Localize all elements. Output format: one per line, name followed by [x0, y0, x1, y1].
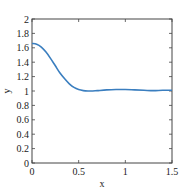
y-tick-label: 1.6 — [17, 42, 30, 53]
x-tick-label: 1.5 — [166, 166, 179, 177]
x-tick-label: 0.5 — [72, 166, 85, 177]
y-tick-label: 0.4 — [17, 129, 30, 140]
y-tick-label: 2 — [24, 14, 29, 25]
line-chart: 00.20.40.60.811.21.41.61.82 00.511.5 x y — [0, 0, 189, 196]
x-axis-ticks: 00.511.5 — [30, 19, 179, 177]
x-tick-label: 1 — [123, 166, 128, 177]
y-tick-label: 0 — [24, 158, 29, 169]
data-line — [32, 43, 172, 91]
y-tick-label: 0.2 — [17, 143, 30, 154]
y-tick-label: 1 — [24, 86, 29, 97]
y-tick-label: 0.6 — [17, 114, 30, 125]
y-tick-label: 1.2 — [17, 71, 30, 82]
y-tick-label: 1.4 — [17, 57, 30, 68]
y-tick-label: 1.8 — [17, 28, 30, 39]
y-axis-label: y — [1, 89, 12, 94]
y-tick-label: 0.8 — [17, 100, 30, 111]
x-tick-label: 0 — [30, 166, 35, 177]
x-axis-label: x — [100, 178, 105, 189]
